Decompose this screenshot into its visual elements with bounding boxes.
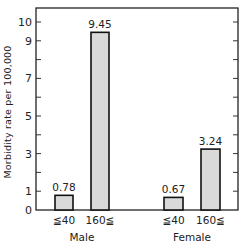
bar	[201, 149, 220, 210]
bar-value-label: 0.67	[162, 183, 185, 195]
bar	[164, 197, 183, 210]
bar-chart: 01357910 0.789.450.673.24 ≦40160≦≦40160≦…	[0, 0, 244, 248]
y-tick-label: 3	[25, 148, 32, 161]
y-tick-label: 7	[25, 72, 32, 85]
x-category-label: ≦40	[53, 214, 75, 226]
y-tick-label: 9	[25, 35, 32, 48]
x-category-label: ≦40	[162, 214, 184, 226]
bar	[55, 195, 73, 210]
x-axis-labels: ≦40160≦≦40160≦MaleFemale	[53, 214, 225, 243]
bar-value-label: 3.24	[199, 135, 223, 147]
y-tick-label: 5	[25, 110, 32, 123]
y-tick-label: 10	[18, 16, 32, 29]
y-axis-title: Morbidity rate per 100,000	[2, 45, 13, 178]
x-category-label: 160≦	[196, 214, 225, 226]
bar-value-label: 0.78	[52, 181, 75, 193]
bar-value-label: 9.45	[88, 18, 111, 30]
x-group-label: Female	[173, 231, 211, 243]
x-category-label: 160≦	[86, 214, 115, 226]
x-group-label: Male	[70, 231, 95, 243]
bar	[91, 32, 109, 210]
y-tick-label: 1	[25, 185, 32, 198]
y-tick-label: 0	[25, 204, 32, 217]
bars: 0.789.450.673.24	[52, 18, 222, 210]
